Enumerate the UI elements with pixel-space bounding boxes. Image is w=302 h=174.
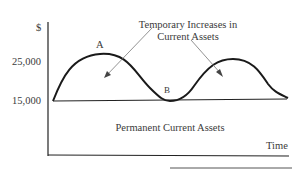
permanent-label: Permanent Current Assets <box>90 123 250 134</box>
y-axis-label: $ <box>36 23 41 34</box>
arrowhead-right-icon <box>216 69 223 77</box>
current-assets-curve <box>53 54 288 101</box>
y-tick-15000: 15,000 <box>12 96 41 107</box>
point-b-label: B <box>164 86 170 95</box>
temporary-label-line2: Current Assets <box>118 32 258 43</box>
point-a-label: A <box>96 40 104 51</box>
x-axis-label: Time <box>266 141 288 152</box>
y-tick-25000: 25,000 <box>12 57 41 68</box>
x-axis <box>48 155 289 156</box>
temporary-label-line1: Temporary Increases in <box>118 20 258 31</box>
